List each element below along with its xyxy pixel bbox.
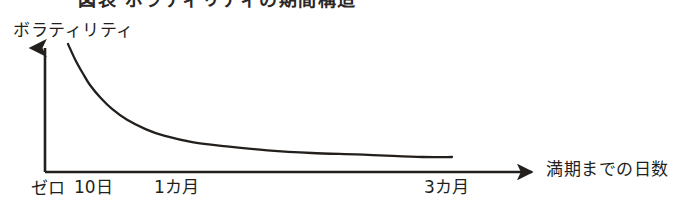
figure-root: 図表 ボラティリティの期間構造 ボラティリティ 満期までの日数 ゼロ 10日 1… xyxy=(0,0,681,211)
plot-area xyxy=(0,0,681,211)
volatility-term-structure-curve xyxy=(68,44,452,157)
